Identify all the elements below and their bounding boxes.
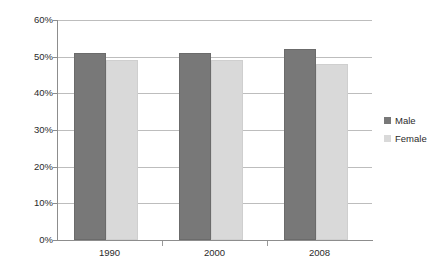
bar-2000-male [179,53,211,240]
y-axis-tick-label: 10% [19,198,53,208]
legend-swatch-icon [384,117,391,124]
legend-swatch-icon [384,135,391,142]
x-axis-tick-label: 1990 [57,248,162,258]
bars-layer [57,20,372,240]
x-axis-tick-mark [267,241,268,246]
legend-item-male: Male [384,113,427,128]
legend: MaleFemale [384,113,427,149]
legend-item-label: Female [395,134,427,144]
legend-item-label: Male [395,116,416,126]
x-axis-line [57,240,373,241]
y-axis-tick-label: 0% [19,235,53,245]
bar-chart: 60%50%40%30%20%10%0% 199020002008 MaleFe… [0,0,443,274]
bar-1990-male [74,53,106,240]
bar-2008-male [284,49,316,240]
y-axis-tick-label: 40% [19,88,53,98]
x-axis-tick-label: 2008 [267,248,372,258]
y-axis-tick-label: 30% [19,125,53,135]
bar-1990-female [106,60,138,240]
legend-item-female: Female [384,131,427,146]
y-axis-tick-label: 20% [19,162,53,172]
bar-2000-female [211,60,243,240]
bar-2008-female [316,64,348,240]
x-axis-tick-label: 2000 [162,248,267,258]
y-axis-tick-label: 60% [19,15,53,25]
y-axis-tick-label: 50% [19,52,53,62]
x-axis-tick-mark [162,241,163,246]
